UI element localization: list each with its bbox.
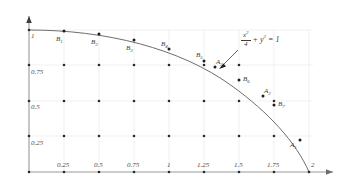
x-tick-label-0.25: 0.25 xyxy=(57,162,69,169)
y-axis-arrow xyxy=(26,16,32,23)
x-tick-label-1.25: 1.25 xyxy=(197,162,209,169)
label-B1: B1 xyxy=(56,36,63,44)
x-tick-label-0.75: 0.75 xyxy=(127,162,139,169)
label-B6: B6 xyxy=(243,76,250,84)
point-B3 xyxy=(133,39,136,42)
y-tick-label-0.5: 0.5 xyxy=(31,104,40,111)
label-B7: B7 xyxy=(278,101,285,109)
label-A2: A2 xyxy=(264,88,271,96)
label-B3: B3 xyxy=(126,45,133,53)
label-B2: B2 xyxy=(91,39,98,47)
x-axis-arrow xyxy=(326,169,333,175)
axis-lines xyxy=(29,16,333,172)
y-tick-label-1: 1 xyxy=(31,33,35,40)
x-tick-label-0.5: 0.5 xyxy=(94,162,103,169)
equation-remainder: + y2 = 1 xyxy=(253,34,280,44)
y-tick-label-0.75: 0.75 xyxy=(31,69,43,76)
grid-lines xyxy=(29,30,313,172)
equation-annotation: x2 4 + y2 = 1 xyxy=(240,30,279,48)
x-tick-label-1.5: 1.5 xyxy=(234,162,243,169)
label-A1: A1 xyxy=(290,142,297,150)
label-A3: A3 xyxy=(216,59,223,67)
label-B5: B5 xyxy=(196,52,203,60)
x-tick-label-1: 1 xyxy=(167,162,171,169)
point-A1 xyxy=(299,139,302,142)
point-B2 xyxy=(98,33,101,36)
point-B6 xyxy=(238,79,241,82)
label-B4: B4 xyxy=(161,41,168,49)
equation-denominator: 4 xyxy=(242,41,250,48)
x-tick-label-2: 2 xyxy=(311,162,315,169)
figure-canvas: 1 0.75 0.5 0.25 0.25 0.5 0.75 1 1.25 1.5… xyxy=(0,0,343,190)
x-tick-label-1.75: 1.75 xyxy=(267,162,279,169)
equation-fraction: x2 4 xyxy=(241,30,251,48)
equation-numerator: x2 xyxy=(241,30,251,40)
plot-svg xyxy=(0,0,343,190)
point-B1 xyxy=(63,30,66,33)
point-B7 xyxy=(273,104,276,107)
y-tick-label-0.25: 0.25 xyxy=(31,140,43,147)
